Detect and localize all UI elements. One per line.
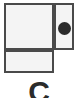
filled-circle-marker-icon bbox=[58, 22, 71, 35]
grid-cell-side[interactable] bbox=[54, 3, 74, 50]
cell-grid bbox=[4, 3, 74, 73]
letter-c-glyph-text: C bbox=[28, 78, 50, 98]
grid-cell-main[interactable] bbox=[4, 3, 54, 50]
grid-cell-bottom[interactable] bbox=[4, 50, 54, 73]
diagram-canvas: C bbox=[0, 0, 77, 98]
letter-c-glyph-icon: C bbox=[26, 78, 52, 98]
